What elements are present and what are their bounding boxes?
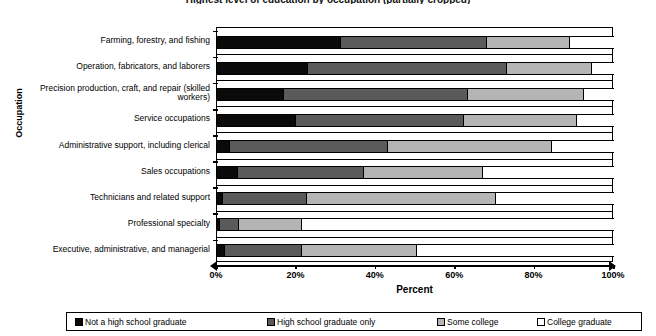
x-axis-tick [613,265,615,269]
bar-segment[interactable] [341,37,487,48]
y-axis-tick [213,57,218,59]
legend-item-label: Some college [447,317,499,327]
y-axis-label: Administrative support, including cleric… [24,141,210,151]
bar-segment[interactable] [296,115,464,126]
bar-row[interactable] [217,88,614,101]
bar-segment[interactable] [223,193,307,204]
bar-segment[interactable] [217,141,230,152]
y-axis-tick [213,83,218,85]
bar-segment[interactable] [217,37,341,48]
x-axis-tick-label: 0% [209,270,222,280]
y-axis-label: Technicians and related support [24,193,210,203]
row-separator [217,132,612,133]
legend-item-label: High school graduate only [277,317,375,327]
y-axis-label: Professional specialty [24,219,210,229]
bar-segment[interactable] [302,219,614,230]
x-axis-line [216,265,613,267]
bar-segment[interactable] [217,63,308,74]
y-axis-label: Operation, fabricators, and laborers [24,62,210,72]
bar-row[interactable] [217,114,614,127]
bar-row[interactable] [217,218,614,231]
legend-swatch-icon [75,318,83,326]
bar-segment[interactable] [388,141,552,152]
bar-segment[interactable] [217,115,296,126]
bar-segment[interactable] [584,89,614,100]
row-separator [217,211,612,212]
bar-segment[interactable] [496,193,614,204]
bar-segment[interactable] [483,167,614,178]
bar-segment[interactable] [552,141,614,152]
x-axis-tick [454,265,456,269]
bar-segment[interactable] [308,63,507,74]
bar-row[interactable] [217,166,614,179]
x-axis-tick-label: 80% [525,270,543,280]
bar-segment[interactable] [570,37,614,48]
bar-segment[interactable] [507,63,592,74]
legend-swatch-icon [267,318,275,326]
y-axis-tick [213,161,218,163]
chart-title: Highest level of education by occupation… [0,0,656,4]
bar-row[interactable] [217,192,614,205]
y-axis-title: Occupation [14,68,24,158]
bar-segment[interactable] [225,245,302,256]
y-axis-label: Executive, administrative, and manageria… [24,245,210,255]
y-axis-tick [213,240,218,242]
bar-segment[interactable] [364,167,483,178]
x-axis-title: Percent [216,284,613,295]
bar-segment[interactable] [468,89,584,100]
y-axis-tick [213,187,218,189]
bar-segment[interactable] [284,89,468,100]
bar-segment[interactable] [487,37,570,48]
legend-item[interactable]: Some college [437,317,499,327]
x-axis-tick-label: 20% [286,270,304,280]
legend-item-label: College graduate [547,317,612,327]
y-axis-tick [213,213,218,215]
bar-row[interactable] [217,140,614,153]
row-separator [217,185,612,186]
y-axis-tick [213,109,218,111]
bar-row[interactable] [217,244,614,257]
bar-segment[interactable] [220,219,239,230]
y-axis-label: Sales occupations [24,167,210,177]
legend-item[interactable]: High school graduate only [267,317,375,327]
row-separator [217,80,612,81]
x-axis-tick [375,265,377,269]
bar-segment[interactable] [217,245,225,256]
y-axis-label: Farming, forestry, and fishing [24,36,210,46]
legend-item[interactable]: Not a high school graduate [75,317,187,327]
x-axis-tick-label: 60% [445,270,463,280]
bar-segment[interactable] [238,167,364,178]
bar-segment[interactable] [307,193,496,204]
y-axis-tick [213,135,218,137]
x-axis-tick [295,265,297,269]
plot-area [216,27,613,262]
row-separator [217,54,612,55]
bar-segment[interactable] [464,115,577,126]
bar-segment[interactable] [217,167,238,178]
bar-segment[interactable] [230,141,388,152]
bar-segment[interactable] [302,245,417,256]
legend-swatch-icon [437,318,445,326]
x-axis-tick-label: 40% [366,270,384,280]
x-axis-tick [216,265,218,269]
bar-row[interactable] [217,62,614,75]
y-axis-category-labels: Farming, forestry, and fishingOperation,… [24,27,210,262]
bar-segment[interactable] [417,245,614,256]
y-axis-label: Precision production, craft, and repair … [24,84,210,103]
bar-segment[interactable] [577,115,614,126]
legend-item[interactable]: College graduate [537,317,612,327]
x-axis-tick-label: 100% [601,270,624,280]
row-separator [217,159,612,160]
chart-root: Highest level of education by occupation… [0,0,656,336]
y-axis-tick [213,31,218,33]
bar-segment[interactable] [239,219,303,230]
chart-legend: Not a high school graduateHigh school gr… [66,312,642,331]
y-axis-label: Service occupations [24,114,210,124]
x-axis-tick [534,265,536,269]
bar-row[interactable] [217,36,614,49]
row-separator [217,237,612,238]
bar-segment[interactable] [592,63,614,74]
legend-swatch-icon [537,318,545,326]
row-separator [217,106,612,107]
bar-segment[interactable] [217,89,284,100]
